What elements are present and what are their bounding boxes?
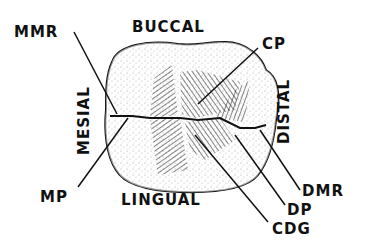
- callout-cdg: CDG: [272, 222, 311, 237]
- label-mesial: MESIAL: [77, 86, 92, 155]
- label-lingual: LINGUAL: [121, 193, 201, 208]
- label-buccal: BUCCAL: [132, 20, 205, 35]
- callout-mp: MP: [40, 190, 68, 205]
- callout-cp: CP: [262, 37, 286, 52]
- callout-mmr: MMR: [14, 25, 58, 40]
- label-distal: DISTAL: [277, 79, 292, 144]
- tooth-diagram: BUCCAL LINGUAL MESIAL DISTAL MMR CP MP D…: [0, 0, 368, 249]
- callout-dp: DP: [287, 203, 312, 218]
- callout-dmr: DMR: [302, 184, 344, 199]
